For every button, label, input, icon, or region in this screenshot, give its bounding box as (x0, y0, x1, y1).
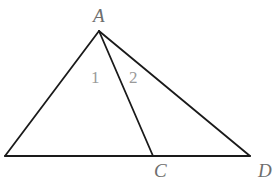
vertex-label-a: A (93, 6, 105, 25)
segment-ac (99, 31, 153, 156)
angle-label-1: 1 (91, 69, 100, 86)
angle-label-2: 2 (129, 69, 138, 86)
vertex-label-d: D (258, 161, 272, 178)
segment-ad (99, 31, 250, 156)
vertex-label-c: C (154, 161, 167, 178)
triangle-diagram: A C D 1 2 (0, 0, 278, 178)
diagram-canvas (0, 0, 278, 178)
segment-ab (5, 31, 99, 156)
